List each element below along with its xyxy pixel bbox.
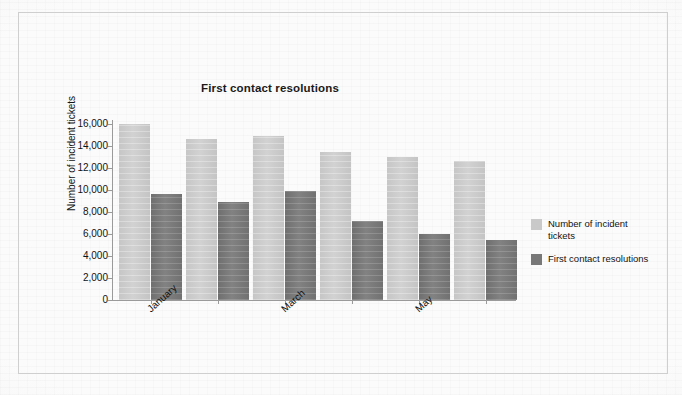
y-tick-label: 12,000 — [60, 163, 108, 173]
bar-first-contact-resolutions — [285, 191, 316, 300]
bar-group — [119, 124, 182, 300]
y-axis-tick-labels: 16,00014,00012,00010,0008,0006,0004,0002… — [56, 0, 108, 395]
legend-swatch — [531, 254, 542, 265]
bar-group — [320, 124, 383, 300]
bar-group — [387, 124, 450, 300]
legend-label: First contact resolutions — [548, 253, 648, 265]
bar-incident-tickets — [186, 139, 217, 300]
x-axis-line — [112, 300, 516, 301]
bar-first-contact-resolutions — [218, 202, 249, 300]
y-tick-label: 0 — [60, 295, 108, 305]
x-tick-mark — [352, 300, 353, 304]
bar-incident-tickets — [454, 161, 485, 300]
bar-incident-tickets — [119, 124, 150, 300]
y-tick-label: 2,000 — [60, 273, 108, 283]
bar-incident-tickets — [320, 152, 351, 301]
x-tick-mark — [486, 300, 487, 304]
bar-first-contact-resolutions — [151, 194, 182, 300]
y-tick-label: 14,000 — [60, 141, 108, 151]
y-tick-label: 6,000 — [60, 229, 108, 239]
bar-group — [253, 124, 316, 300]
y-tick-label: 10,000 — [60, 185, 108, 195]
bar-first-contact-resolutions — [352, 221, 383, 300]
bar-incident-tickets — [253, 136, 284, 300]
bar-first-contact-resolutions — [486, 240, 517, 301]
legend-swatch — [531, 219, 542, 230]
chart-legend: Number of incident ticketsFirst contact … — [531, 218, 661, 276]
y-tick-label: 4,000 — [60, 251, 108, 261]
x-tick-mark — [218, 300, 219, 304]
legend-item: First contact resolutions — [531, 253, 661, 265]
bar-first-contact-resolutions — [419, 234, 450, 300]
bar-group — [186, 124, 249, 300]
bar-group — [454, 124, 517, 300]
plot-area — [113, 124, 515, 300]
bar-incident-tickets — [387, 157, 418, 300]
legend-item: Number of incident tickets — [531, 218, 661, 242]
legend-label: Number of incident tickets — [548, 218, 653, 242]
y-tick-label: 8,000 — [60, 207, 108, 217]
y-tick-label: 16,000 — [60, 119, 108, 129]
